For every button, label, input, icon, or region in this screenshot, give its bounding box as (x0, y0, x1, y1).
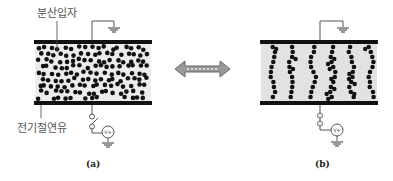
label-dispersed-particles: 분산입자 (37, 8, 77, 20)
ground-icon-top-b (337, 28, 349, 32)
double-arrow-icon (175, 61, 230, 77)
top-electrode-a (34, 40, 152, 44)
ground-icon-bottom-a (102, 143, 114, 147)
ground-icon-bottom-b (331, 142, 343, 146)
voltage-source-a: V+ (102, 126, 114, 142)
panel-b: V+ (260, 21, 378, 146)
switch-open-a (90, 105, 103, 133)
ground-icon-top-a (108, 28, 120, 32)
svg-text:V+: V+ (104, 129, 112, 135)
voltage-source-b: V+ (331, 124, 343, 141)
caption-b: (b) (315, 159, 330, 169)
caption-a: (a) (86, 159, 100, 169)
top-electrode-b (260, 40, 378, 44)
er-fluid-diagram: V+ V+ (0, 0, 393, 181)
svg-text:V+: V+ (333, 127, 341, 133)
fluid-b (261, 43, 377, 102)
label-insulating-oil: 전기절연유 (17, 123, 67, 135)
bottom-electrode-b (260, 101, 378, 105)
bottom-electrode-a (34, 101, 152, 105)
switch-closed-b (318, 105, 332, 130)
